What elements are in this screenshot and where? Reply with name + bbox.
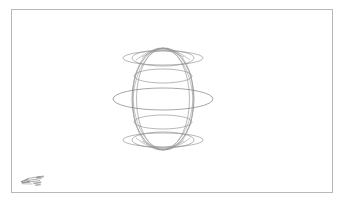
drawing-canvas-frame: [11, 9, 333, 193]
corner-logo-mark: [19, 173, 49, 191]
screenshot-root: [0, 0, 345, 207]
logo-glyph-icon: [21, 176, 45, 186]
